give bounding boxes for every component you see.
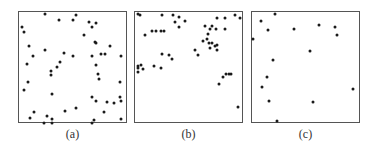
data-point (94, 99, 97, 102)
data-point (215, 27, 218, 30)
data-point (266, 75, 269, 78)
data-point (237, 106, 240, 109)
data-point (90, 55, 93, 58)
data-point (29, 117, 32, 120)
data-point (106, 100, 109, 103)
data-point (20, 25, 23, 28)
data-point (273, 12, 276, 15)
data-point (161, 13, 164, 16)
data-point (292, 27, 295, 30)
data-point (94, 42, 97, 45)
data-point (177, 25, 180, 28)
data-point (218, 83, 221, 86)
data-point (208, 27, 211, 30)
data-point (64, 109, 67, 112)
data-point (138, 13, 141, 16)
data-point (120, 99, 123, 102)
data-point (210, 42, 213, 45)
data-point (271, 59, 274, 62)
data-point (229, 72, 232, 75)
data-point (173, 21, 176, 24)
data-point (216, 44, 219, 47)
data-point (63, 51, 66, 54)
panel-a-caption: (a) (18, 127, 127, 142)
data-point (28, 45, 31, 48)
data-point (144, 34, 147, 37)
data-point (51, 93, 54, 96)
data-point (268, 99, 271, 102)
data-point (170, 58, 173, 61)
data-point (71, 19, 74, 22)
data-point (22, 31, 25, 34)
data-point (136, 71, 139, 74)
data-point (352, 87, 355, 90)
data-point (223, 27, 226, 30)
data-point (83, 34, 86, 37)
data-point (55, 66, 58, 69)
data-point (90, 96, 93, 99)
data-point (206, 33, 209, 36)
data-point (193, 48, 196, 51)
data-point (308, 49, 311, 52)
data-point (168, 54, 171, 57)
data-point (154, 30, 157, 33)
panel-b (134, 11, 243, 123)
data-point (139, 63, 142, 66)
data-point (152, 64, 155, 67)
data-point (222, 75, 225, 78)
data-point (239, 16, 242, 19)
data-point (74, 107, 77, 110)
data-point (43, 48, 46, 51)
data-point (234, 13, 237, 16)
data-point (96, 72, 99, 75)
data-point (197, 54, 200, 57)
data-point (33, 110, 36, 113)
data-point (336, 34, 339, 37)
data-point (261, 85, 264, 88)
data-point (120, 118, 123, 121)
data-point (46, 115, 49, 118)
data-point (27, 81, 30, 84)
data-point (97, 77, 100, 80)
data-point (216, 16, 219, 19)
panel-c (251, 11, 360, 123)
data-point (112, 101, 115, 104)
data-point (92, 119, 95, 122)
data-point (184, 20, 187, 23)
data-point (42, 121, 45, 124)
data-point (334, 25, 337, 28)
data-point (275, 120, 278, 123)
data-point (108, 45, 111, 48)
data-point (32, 55, 35, 58)
data-point (205, 37, 208, 40)
data-point (120, 55, 123, 58)
panel-b-caption: (b) (134, 127, 243, 142)
data-point (208, 47, 211, 50)
data-point (136, 67, 139, 70)
data-point (22, 88, 25, 91)
data-point (74, 13, 77, 16)
data-point (103, 110, 106, 113)
data-point (210, 24, 213, 27)
data-point (51, 121, 54, 124)
data-point (216, 48, 219, 51)
data-point (202, 39, 205, 42)
data-point (58, 60, 61, 63)
data-point (311, 100, 314, 103)
data-point (94, 63, 97, 66)
data-point (50, 73, 53, 76)
data-point (94, 22, 97, 25)
data-point (57, 19, 60, 22)
data-point (251, 37, 254, 40)
data-point (260, 20, 263, 23)
data-point (161, 52, 164, 55)
panel-a (18, 11, 127, 123)
panel-c-caption: (c) (251, 127, 360, 142)
data-point (100, 52, 103, 55)
data-point (267, 28, 270, 31)
data-point (204, 24, 207, 27)
data-point (119, 81, 122, 84)
data-point (90, 25, 93, 28)
data-point (43, 12, 46, 15)
data-point (159, 67, 162, 70)
